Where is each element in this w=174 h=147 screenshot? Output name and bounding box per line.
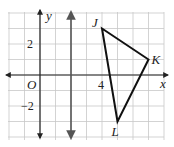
- vertex-label-l: L: [111, 124, 119, 139]
- origin-label: O: [27, 77, 37, 92]
- tick-label-y-neg2: −2: [21, 99, 34, 113]
- tick-label-x-4: 4: [98, 78, 104, 92]
- vertex-label-j: J: [92, 15, 99, 30]
- coordinate-plane: x y O 2 −2 4 J K L: [0, 0, 174, 147]
- x-axis-label: x: [159, 76, 166, 91]
- y-axis-label: y: [44, 8, 52, 23]
- vertex-label-k: K: [151, 52, 162, 67]
- tick-label-y-2: 2: [27, 37, 33, 51]
